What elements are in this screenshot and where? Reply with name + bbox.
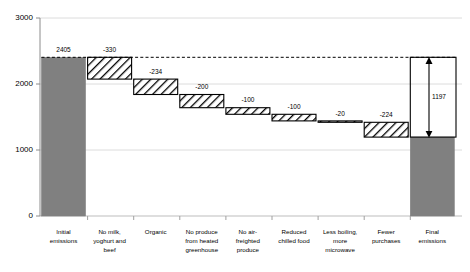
svg-text:emissions: emissions <box>419 237 447 244</box>
x-axis-ticks <box>88 216 411 220</box>
annotation-label: 1197 <box>432 93 446 100</box>
x-label-no-produce-from-heated-greenhouse: No produce from heated greenhouse <box>185 228 219 253</box>
bar-initial-emissions <box>42 57 86 216</box>
data-label-no-milk-yoghurt-and-beef: -330 <box>103 46 116 53</box>
data-label-no-produce-from-heated-greenhouse: -200 <box>195 83 208 90</box>
svg-text:Less boiling,: Less boiling, <box>323 228 358 235</box>
y-tick-label-1000: 1000 <box>15 145 33 154</box>
x-label-less-boiling-more-microwave: Less boiling, more microwave <box>323 228 358 253</box>
bars <box>42 57 455 216</box>
data-label-organic: -234 <box>149 68 162 75</box>
y-axis <box>36 18 40 216</box>
data-label-initial-emissions: 2405 <box>56 46 71 53</box>
svg-text:No produce: No produce <box>186 228 219 235</box>
annotation-box: 1197 <box>410 57 456 137</box>
waterfall-chart: 3000 2000 1000 0 1197 2405 -330 -2 <box>0 0 470 272</box>
bar-no-milk-yoghurt-and-beef <box>88 57 132 79</box>
svg-text:No milk,: No milk, <box>98 228 121 235</box>
y-tick-label-2000: 2000 <box>15 79 33 88</box>
x-axis-labels: Initial emissions No milk, yoghurt and b… <box>50 228 446 253</box>
svg-text:Fewer: Fewer <box>378 228 395 235</box>
bar-fewer-purchases <box>364 122 408 137</box>
bar-organic <box>134 79 178 94</box>
svg-text:more: more <box>333 237 348 244</box>
x-label-no-air-freighted-produce: No air- freighted produce <box>236 228 261 253</box>
svg-text:purchases: purchases <box>372 237 401 244</box>
svg-text:freighted: freighted <box>236 237 261 244</box>
data-label-no-air-freighted-produce: -100 <box>241 96 254 103</box>
svg-text:Final: Final <box>426 228 439 235</box>
x-label-final-emissions: Final emissions <box>419 228 447 244</box>
svg-text:Initial: Initial <box>56 228 70 235</box>
svg-text:chilled food: chilled food <box>278 237 310 244</box>
y-tick-label-0: 0 <box>29 211 34 220</box>
svg-text:beef: beef <box>104 246 116 253</box>
bar-final-emissions <box>410 137 454 216</box>
bar-less-boiling-more-microwave <box>318 121 362 122</box>
svg-text:Reduced: Reduced <box>282 228 307 235</box>
x-label-reduced-chilled-food: Reduced chilled food <box>278 228 310 244</box>
svg-text:No air-: No air- <box>239 228 258 235</box>
x-label-no-milk-yoghurt-and-beef: No milk, yoghurt and beef <box>93 228 126 253</box>
x-label-organic: Organic <box>145 228 167 235</box>
x-label-initial-emissions: Initial emissions <box>50 228 78 244</box>
bar-no-produce-from-heated-greenhouse <box>180 95 224 108</box>
y-tick-label-3000: 3000 <box>15 13 33 22</box>
svg-text:Organic: Organic <box>145 228 167 235</box>
svg-text:greenhouse: greenhouse <box>185 246 218 253</box>
y-axis-tick-labels: 3000 2000 1000 0 <box>15 13 33 220</box>
svg-text:from heated: from heated <box>185 237 219 244</box>
data-label-reduced-chilled-food: -100 <box>287 103 300 110</box>
data-label-less-boiling-more-microwave: -20 <box>335 110 345 117</box>
x-label-fewer-purchases: Fewer purchases <box>372 228 401 244</box>
svg-text:microwave: microwave <box>325 246 355 253</box>
bar-no-air-freighted-produce <box>226 108 270 115</box>
svg-text:yoghurt and: yoghurt and <box>93 237 126 244</box>
bar-reduced-chilled-food <box>272 114 316 121</box>
data-label-fewer-purchases: -224 <box>380 111 393 118</box>
svg-text:emissions: emissions <box>50 237 78 244</box>
svg-text:produce: produce <box>237 246 260 253</box>
chart-canvas: 3000 2000 1000 0 1197 2405 -330 -2 <box>0 0 470 272</box>
